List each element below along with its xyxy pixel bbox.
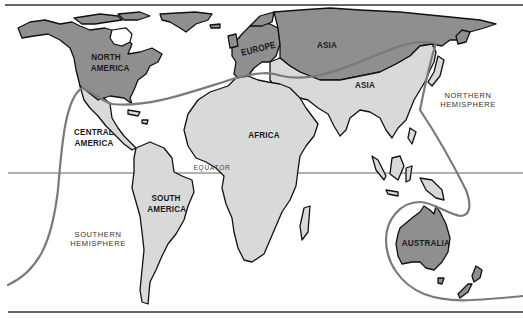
- south-america-shape: [132, 142, 194, 304]
- new-zealand-north-shape: [472, 266, 482, 282]
- label-northern-hemisphere: NORTHERN HEMISPHERE: [436, 92, 500, 109]
- sulawesi-shape: [406, 166, 412, 182]
- label-asia-north: ASIA: [314, 40, 340, 51]
- arctic-island-2: [118, 12, 150, 20]
- label-north-america: NORTH AMERICA: [91, 52, 122, 74]
- new-zealand-south-shape: [458, 284, 472, 298]
- iceland-shape: [210, 24, 220, 28]
- sumatra-shape: [372, 156, 386, 180]
- tasmania-shape: [438, 278, 444, 284]
- new-guinea-shape: [420, 178, 444, 200]
- cuba-shape: [128, 110, 140, 116]
- arctic-islands-shape: [74, 14, 122, 24]
- java-shape: [386, 190, 398, 196]
- label-africa: AFRICA: [247, 130, 281, 141]
- label-asia-south: ASIA: [352, 80, 378, 91]
- greenland-shape: [160, 12, 212, 32]
- madagascar-shape: [300, 206, 310, 240]
- hispaniola-shape: [142, 120, 148, 124]
- label-south-america: SOUTH AMERICA: [147, 193, 184, 215]
- british-isles-shape: [228, 34, 238, 48]
- borneo-shape: [390, 156, 404, 180]
- label-equator: EQUATOR: [190, 164, 234, 171]
- hudson-bay: [110, 28, 132, 46]
- label-southern-hemisphere: SOUTHERN HEMISPHERE: [64, 231, 132, 248]
- label-australia: AUSTRALIA: [402, 238, 445, 249]
- philippines-shape: [408, 128, 416, 144]
- label-central-america: CENTRAL AMERICA: [70, 127, 118, 149]
